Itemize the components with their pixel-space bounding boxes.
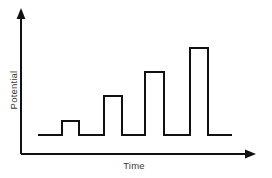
chart-figure: Potential Time — [0, 0, 272, 178]
y-axis-arrowhead-icon — [17, 8, 26, 19]
x-axis-arrowhead-icon — [245, 149, 256, 158]
potential-step-waveform — [38, 48, 232, 135]
potential-vs-time-plot: Potential Time — [0, 0, 272, 178]
y-axis-label: Potential — [8, 71, 19, 110]
x-axis-label: Time — [123, 160, 145, 171]
